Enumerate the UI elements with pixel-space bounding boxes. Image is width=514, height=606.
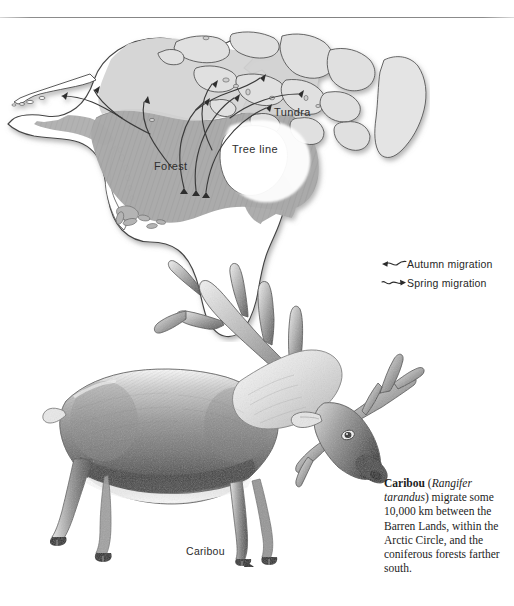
map-label-tundra: Tundra xyxy=(274,106,311,118)
top-divider xyxy=(0,17,514,18)
map-label-tree-line: Tree line xyxy=(232,143,278,155)
map-label-forest: Forest xyxy=(154,160,188,172)
caption-paren-open: ( xyxy=(425,477,432,489)
figure-caption: Caribou (Rangifer tarandus) migrate some… xyxy=(384,476,506,575)
caribou-illustration xyxy=(8,225,428,570)
caption-body: ) migrate some 10,000 km between the Bar… xyxy=(384,491,500,574)
caption-species-common: Caribou xyxy=(384,477,425,489)
caribou-art-label: Caribou xyxy=(186,545,225,557)
figure-page: Forest Tundra Tree line Autumn migration… xyxy=(0,0,514,606)
